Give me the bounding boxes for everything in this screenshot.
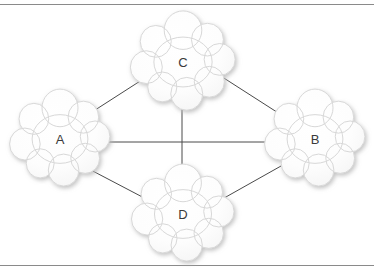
node-label-b: B <box>311 133 320 146</box>
edge-d-b <box>217 166 281 202</box>
edge-c-b <box>216 73 283 116</box>
diagram-canvas: ACBD <box>0 0 374 275</box>
edge-a-d <box>87 168 150 201</box>
node-label-c: C <box>178 56 187 69</box>
node-label-a: A <box>56 133 65 146</box>
node-label-d: D <box>178 208 187 221</box>
